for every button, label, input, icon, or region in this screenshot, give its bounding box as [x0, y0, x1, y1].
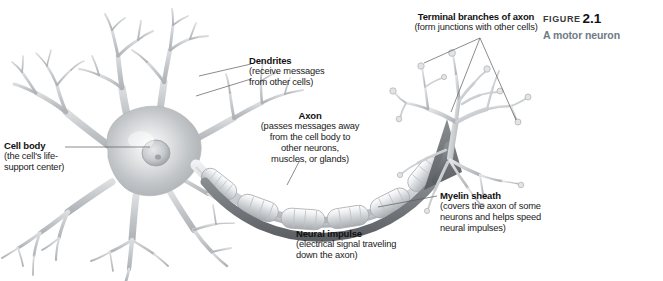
callout-axon: Axon (passes messages away from the cell… — [243, 110, 377, 165]
callout-terminal-branches: Terminal branches of axon (form junction… — [396, 11, 556, 33]
callout-myelin-sheath-body: (covers the axon of some neurons and hel… — [440, 201, 565, 234]
callout-axon-title: Axon — [243, 110, 377, 121]
figure-label-word: FIGURE — [543, 14, 581, 24]
callout-dendrites-title: Dendrites — [249, 55, 354, 66]
callout-cell-body-title: Cell body — [4, 140, 96, 151]
callout-terminal-branches-body: (form junctions with other cells) — [396, 22, 556, 33]
callout-myelin-sheath: Myelin sheath (covers the axon of some n… — [440, 190, 565, 234]
callout-neural-impulse-body: (electrical signal traveling down the ax… — [296, 239, 431, 261]
leader-dendrites-2 — [196, 79, 251, 96]
figure-caption: FIGURE2.1 A motor neuron — [543, 9, 655, 41]
callout-dendrites-body: (receive messages from other cells) — [249, 66, 354, 88]
callout-cell-body: Cell body (the cell's life- support cent… — [4, 140, 96, 173]
callout-neural-impulse: Neural impulse (electrical signal travel… — [296, 228, 431, 261]
callout-myelin-sheath-title: Myelin sheath — [440, 190, 565, 201]
figure-label-number: 2.1 — [583, 11, 602, 26]
leader-dendrites-1 — [199, 64, 251, 76]
callout-dendrites: Dendrites (receive messages from other c… — [249, 55, 354, 88]
nucleolus — [155, 154, 161, 159]
callout-cell-body-body: (the cell's life- support center) — [4, 151, 96, 173]
callout-axon-body: (passes messages away from the cell body… — [243, 121, 377, 165]
callout-terminal-branches-title: Terminal branches of axon — [396, 11, 556, 22]
callout-neural-impulse-title: Neural impulse — [296, 228, 431, 239]
figure-motor-neuron: Terminal branches of axon (form junction… — [0, 0, 663, 281]
figure-subtitle: A motor neuron — [543, 29, 655, 41]
